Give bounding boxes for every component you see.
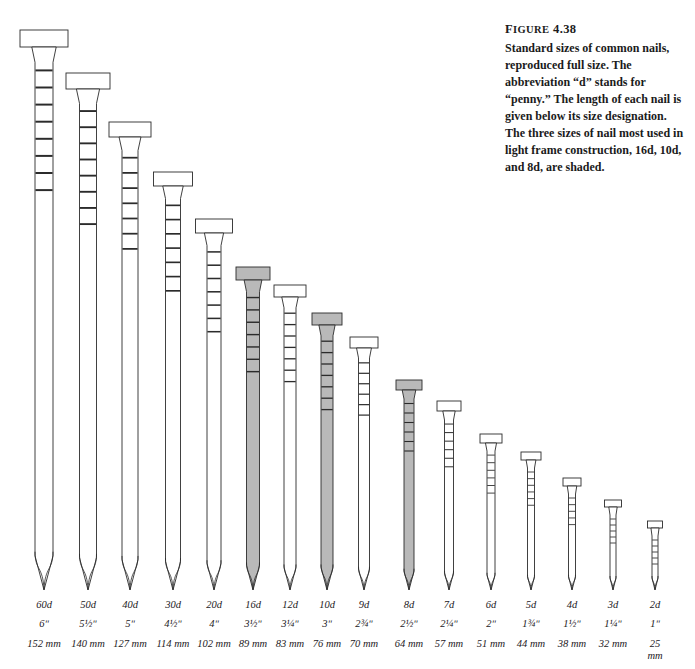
nail-shank	[319, 325, 335, 590]
nail-head	[312, 313, 342, 325]
nail-shank	[163, 186, 183, 590]
nail-head	[196, 219, 233, 233]
nail-shank	[485, 443, 496, 590]
nail-length-inches-label: 1ʺ	[615, 619, 695, 630]
nail-shank	[244, 280, 262, 590]
nail-head	[154, 172, 193, 186]
nail-4d	[563, 478, 581, 590]
nail-label-group-2d: 2d1ʺ25mm	[615, 600, 695, 662]
nail-shank	[443, 411, 455, 590]
nail-head	[66, 73, 110, 89]
nail-50d	[66, 73, 110, 590]
nail-head	[563, 478, 581, 486]
nail-16d	[236, 267, 270, 590]
nail-30d	[154, 172, 193, 590]
nail-head	[236, 267, 270, 280]
nail-head	[605, 500, 622, 507]
nail-shank	[282, 297, 298, 590]
nail-10d	[312, 313, 342, 590]
nail-shank	[567, 486, 577, 590]
nail-head	[20, 30, 68, 47]
nail-7d	[437, 401, 461, 590]
nail-diagram-svg	[0, 0, 695, 669]
nail-head	[109, 122, 151, 137]
nail-head	[350, 337, 378, 348]
nail-head	[648, 521, 663, 528]
nail-12d	[274, 285, 306, 590]
nail-40d	[109, 122, 151, 590]
nail-head	[480, 434, 502, 443]
nail-8d	[396, 380, 422, 590]
nail-shank	[119, 137, 141, 590]
nail-5d	[521, 452, 541, 590]
nail-20d	[196, 219, 233, 590]
nail-shank	[32, 47, 56, 590]
nail-shank	[651, 528, 659, 590]
nail-shank	[76, 89, 99, 590]
nail-size-figure: 60d6ʺ152 mm50d5½ʺ140 mm40d5ʺ127 mm30d4½ʺ…	[0, 0, 695, 669]
nail-head	[437, 401, 461, 411]
nail-3d	[605, 500, 622, 590]
nail-9d	[350, 337, 378, 590]
nail-head	[396, 380, 422, 390]
nail-shank	[526, 460, 536, 590]
nail-60d	[20, 30, 68, 590]
nail-6d	[480, 434, 502, 590]
nail-size-label: 2d	[615, 600, 695, 611]
nail-shank	[402, 390, 416, 590]
nail-2d	[648, 521, 663, 590]
nail-shank	[204, 233, 223, 590]
nail-head	[274, 285, 306, 297]
nail-head	[521, 452, 541, 460]
nail-length-mm-label: 25mm	[615, 638, 695, 662]
